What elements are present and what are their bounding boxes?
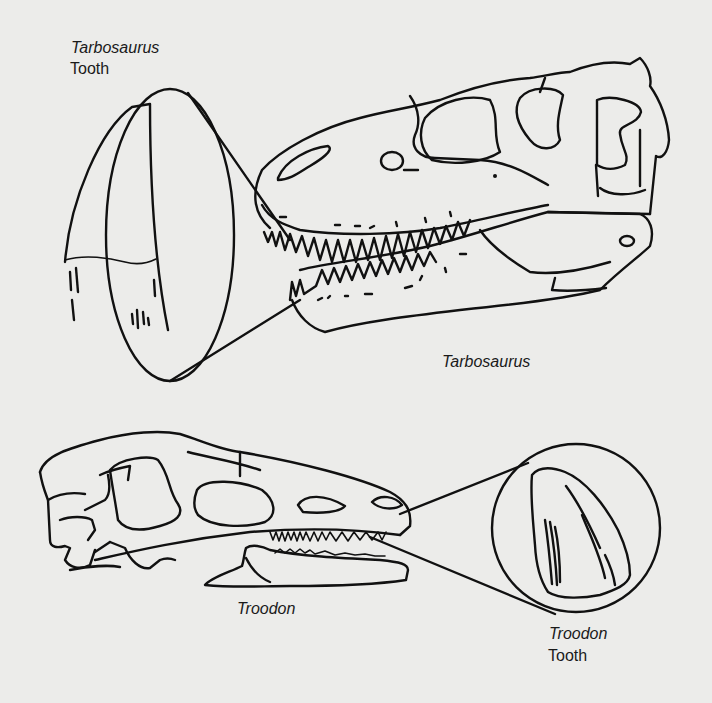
tarbosaurus-skull xyxy=(255,58,669,332)
troodon-skull xyxy=(40,432,410,587)
illustration-canvas xyxy=(0,0,712,703)
tarbosaurus-tooth-outline xyxy=(65,104,168,330)
troodon-tooth-circle xyxy=(492,444,660,612)
troodon-zoom-line-bottom xyxy=(370,537,555,614)
tarbosaurus-zoom-line-bottom xyxy=(170,300,300,381)
troodon-tooth-magnifier xyxy=(370,444,660,614)
troodon-zoom-line-top xyxy=(400,463,528,514)
